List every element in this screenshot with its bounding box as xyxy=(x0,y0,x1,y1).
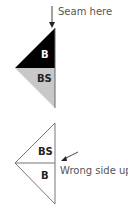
wrong-side-arrow-icon xyxy=(61,152,78,161)
top-triangle xyxy=(15,28,55,108)
wrong-side-annotation: Wrong side up xyxy=(60,166,128,176)
top-lower-label: BS xyxy=(37,74,52,84)
diagram-canvas xyxy=(0,0,128,222)
bottom-lower-label: B xyxy=(41,171,49,181)
bottom-upper-label: BS xyxy=(38,147,53,157)
top-upper-label: B xyxy=(41,50,49,60)
seam-annotation: Seam here xyxy=(58,7,112,17)
bottom-triangle xyxy=(15,123,55,204)
seam-arrow-icon xyxy=(49,6,55,28)
top-triangle-upper-half xyxy=(15,28,55,68)
